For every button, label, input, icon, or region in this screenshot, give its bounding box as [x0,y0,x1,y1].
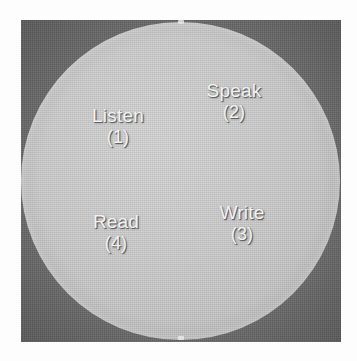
quadrant-label-speak: Speak (2) [184,80,284,123]
quadrant-label-read: Read (4) [66,211,166,254]
quadrant-label-write-text: Write [220,202,265,223]
figure-canvas: Listen (1) Speak (2) Write (3) Read (4) [0,0,357,361]
quadrant-label-read-text: Read [93,211,139,232]
diagram-field: Listen (1) Speak (2) Write (3) Read (4) [21,20,341,342]
quadrant-index-read: (4) [66,233,166,254]
quadrant-label-listen-text: Listen [92,105,144,126]
quadrant-index-speak: (2) [184,102,284,123]
quadrant-index-listen: (1) [68,127,168,148]
circle-bottom-nick [178,336,184,340]
quadrant-label-speak-text: Speak [207,80,262,101]
circle-top-nick [178,20,184,24]
quadrant-label-listen: Listen (1) [68,105,168,148]
quadrant-index-write: (3) [192,224,292,245]
quadrant-label-write: Write (3) [192,202,292,245]
circle-shape [21,22,340,340]
